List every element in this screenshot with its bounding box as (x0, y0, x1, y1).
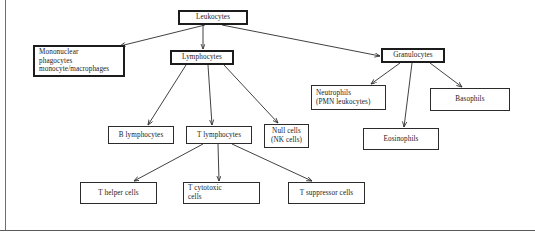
page-frame-bottom-rule (0, 230, 535, 231)
node-label-neutrophils: Neutrophils (PMN leukocytes) (312, 89, 374, 106)
node-t-suppressor-cells[interactable]: T suppressor cells (288, 182, 365, 204)
page-frame-left-rule (5, 0, 6, 231)
edge-granulocytes-to-basophils (430, 63, 462, 87)
edge-granulocytes-to-neutrophils (371, 63, 400, 84)
node-basophils[interactable]: Basophils (430, 88, 510, 111)
node-label-t-suppressor-cells: T suppressor cells (297, 189, 357, 198)
edge-lymphocytes-to-null-cells (224, 65, 278, 123)
node-granulocytes[interactable]: Granulocytes (381, 48, 445, 63)
node-label-null-cells: Null cells (NK cells) (268, 127, 305, 144)
edge-leukocytes-to-granulocytes (222, 25, 380, 56)
edge-granulocytes-to-eosinophils (404, 63, 412, 127)
node-eosinophils[interactable]: Eosinophils (363, 128, 439, 150)
node-neutrophils[interactable]: Neutrophils (PMN leukocytes) (311, 85, 386, 110)
node-t-lymphocytes[interactable]: T lymphocytes (186, 126, 252, 144)
node-leukocytes[interactable]: Leukocytes (178, 10, 248, 25)
node-label-t-helper-cells: T helper cells (95, 189, 141, 198)
edge-t-lymphocytes-to-t-cytotoxic (218, 144, 219, 181)
edge-lymphocytes-to-t-lymphocytes (208, 65, 212, 125)
node-b-lymphocytes[interactable]: B lymphocytes (108, 126, 174, 144)
leukocyte-hierarchy-diagram: LeukocytesMononuclear phagocytes monocyt… (0, 0, 535, 243)
node-label-granulocytes: Granulocytes (390, 51, 436, 60)
node-label-lymphocytes: Lymphocytes (179, 53, 225, 62)
node-null-cells[interactable]: Null cells (NK cells) (264, 124, 309, 148)
node-t-helper-cells[interactable]: T helper cells (80, 182, 157, 204)
node-label-t-cytotoxic-cells: T cytotoxic cells (184, 184, 225, 201)
node-label-basophils: Basophils (452, 95, 487, 104)
edge-lymphocytes-to-b-lymphocytes (148, 65, 186, 125)
edge-leukocytes-to-mononuclear (120, 25, 205, 46)
edge-t-lymphocytes-to-t-suppressor (232, 144, 312, 181)
node-t-cytotoxic-cells[interactable]: T cytotoxic cells (183, 182, 260, 204)
node-lymphocytes[interactable]: Lymphocytes (170, 50, 234, 65)
node-mononuclear-phagocytes[interactable]: Mononuclear phagocytes monocyte/macropha… (33, 45, 125, 77)
node-label-eosinophils: Eosinophils (380, 135, 421, 144)
node-label-mononuclear-phagocytes: Mononuclear phagocytes monocyte/macropha… (35, 48, 112, 74)
edge-t-lymphocytes-to-t-helper (134, 144, 203, 181)
node-label-b-lymphocytes: B lymphocytes (116, 131, 167, 140)
connector-layer (0, 0, 535, 243)
node-label-leukocytes: Leukocytes (193, 13, 233, 22)
node-label-t-lymphocytes: T lymphocytes (194, 131, 244, 140)
